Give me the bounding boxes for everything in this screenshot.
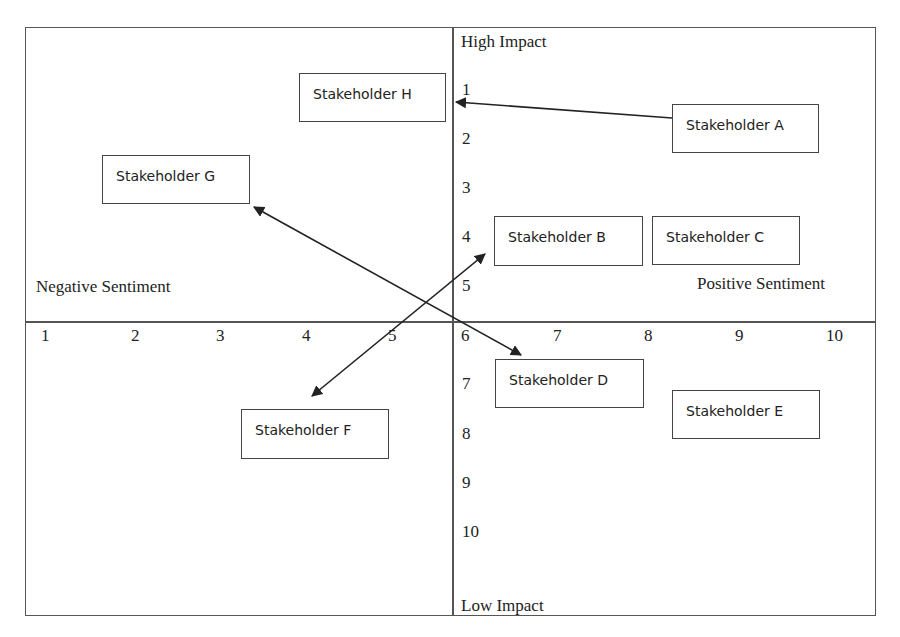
y-tick: 7 [462,375,471,393]
y-tick: 9 [462,474,471,492]
y-tick: 1 [462,81,471,99]
x-tick: 9 [735,327,744,345]
stakeholder-c-box: Stakeholder C [652,216,800,265]
y-tick: 8 [462,425,471,443]
x-tick: 4 [302,327,311,345]
stakeholder-d-box: Stakeholder D [495,359,644,408]
x-tick: 2 [131,327,140,345]
y-tick: 10 [462,523,479,541]
x-tick: 10 [826,327,843,345]
negative-sentiment-label: Negative Sentiment [36,278,171,296]
stakeholder-a-box: Stakeholder A [672,104,819,153]
y-tick: 3 [462,179,471,197]
sentiment-axis [25,321,876,323]
low-impact-label: Low Impact [461,597,544,615]
stakeholder-e-box: Stakeholder E [672,390,820,439]
stakeholder-h-box: Stakeholder H [299,73,446,122]
positive-sentiment-label: Positive Sentiment [697,275,825,293]
stakeholder-g-box: Stakeholder G [102,155,250,204]
x-tick: 5 [388,327,397,345]
x-tick: 1 [41,327,50,345]
high-impact-label: High Impact [461,33,546,51]
y-tick: 2 [462,130,471,148]
x-tick: 7 [553,327,562,345]
y-tick: 5 [462,277,471,295]
stakeholder-f-box: Stakeholder F [241,409,389,459]
x-tick: 3 [216,327,225,345]
x-tick: 6 [461,327,470,345]
x-tick: 8 [644,327,653,345]
stakeholder-b-box: Stakeholder B [494,216,643,266]
y-tick: 4 [462,228,471,246]
